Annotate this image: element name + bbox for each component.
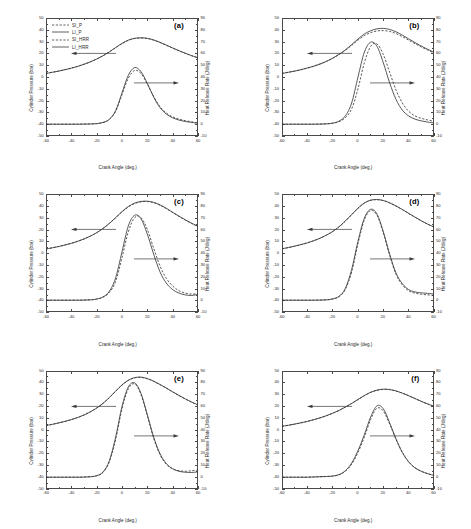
y-right-tick-label: 10	[436, 110, 441, 114]
y-right-tick-label: 10	[201, 463, 206, 467]
y-right-tick-label: 20	[436, 451, 441, 455]
y-right-tick-label: 30	[436, 263, 441, 267]
y-left-tick-label: -30	[38, 287, 44, 291]
x-tick	[434, 133, 435, 136]
chart-panel-e: Cylinder Pressure (bar)Heat Release Rate…	[0, 353, 236, 529]
y-left-tick-label: 20	[274, 51, 279, 55]
x-axis-title: Crank Angle (deg.)	[334, 342, 372, 347]
y-right-tick-label: -10	[201, 310, 207, 314]
arrow-to-pressure-axis	[71, 228, 116, 231]
legend-label: LI_HRR	[72, 45, 89, 50]
y-right-tick-label: 40	[201, 428, 206, 432]
chart-panel-d: Cylinder Pressure (bar)Heat Release Rate…	[236, 176, 471, 352]
x-tick-label: -40	[68, 315, 74, 319]
x-tick	[198, 486, 199, 489]
y-left-tick-label: 50	[39, 192, 44, 196]
x-tick-label: 20	[381, 315, 386, 319]
arrow-to-hrr-axis	[370, 434, 415, 437]
x-tick-label: -40	[68, 491, 74, 495]
y-right-tick-label: 0	[436, 122, 438, 126]
series-si_p	[282, 389, 434, 426]
series-si_hrr	[282, 211, 434, 301]
series-si_p	[46, 202, 198, 250]
plot-area: (d)50403020100-10-20-30-40-5090807060504…	[282, 194, 434, 312]
y-right-tick-label: 30	[436, 439, 441, 443]
x-tick-label: -60	[279, 315, 285, 319]
y-right-tick-label: 60	[201, 404, 206, 408]
series-si_hrr	[46, 70, 198, 124]
y-left-tick-label: 40	[274, 204, 279, 208]
plot-area: (f)50403020100-10-20-30-40-5090807060504…	[282, 371, 434, 489]
legend-label: SI_P	[72, 23, 82, 28]
y-right-tick-label: 80	[201, 380, 206, 384]
y-right-tick-label: 60	[436, 51, 441, 55]
x-tick-label: 60	[196, 491, 201, 495]
y-axis-right-title: Heat Release Rate (J/deg)	[205, 414, 210, 468]
y-right-tick-label: 40	[436, 251, 441, 255]
chart-panel-b: Cylinder Pressure (bar)Heat Release Rate…	[236, 0, 471, 176]
y-right-tick-label: -10	[436, 487, 442, 491]
x-tick-label: -60	[279, 139, 285, 143]
x-tick-label: 20	[381, 139, 386, 143]
y-right-tick-label: 90	[201, 192, 206, 196]
x-tick-label: 60	[196, 139, 201, 143]
y-right-tick-label: 30	[201, 263, 206, 267]
x-tick-label: 20	[145, 315, 150, 319]
series-layer	[282, 194, 434, 312]
series-li_hrr	[282, 405, 434, 477]
y-left-tick-label: -10	[273, 87, 279, 91]
x-tick-label: 40	[170, 139, 175, 143]
x-tick-label: -20	[94, 139, 100, 143]
y-left-tick-label: -10	[38, 263, 44, 267]
series-li_p	[46, 377, 198, 425]
y-left-tick-label: -40	[273, 298, 279, 302]
y-right-tick-label: 60	[201, 228, 206, 232]
y-right-tick-label: 80	[436, 28, 441, 32]
x-tick-label: 0	[121, 139, 123, 143]
y-right-tick-label: 0	[201, 122, 203, 126]
y-right-tick-label: 40	[436, 428, 441, 432]
y-right-tick-label: 50	[201, 416, 206, 420]
plot-area: (c)50403020100-10-20-30-40-5090807060504…	[46, 194, 198, 312]
x-tick-label: -40	[68, 139, 74, 143]
y-right-tick-label: 40	[436, 75, 441, 79]
arrow-to-pressure-axis	[71, 404, 116, 407]
y-left-tick-label: 10	[39, 239, 44, 243]
x-tick-label: -20	[329, 315, 335, 319]
x-axis-title: Crank Angle (deg.)	[99, 518, 137, 523]
y-left-tick-label: 40	[39, 204, 44, 208]
y-left-tick-label: -30	[38, 463, 44, 467]
x-tick-label: -20	[94, 315, 100, 319]
y-left-tick-label: -30	[273, 287, 279, 291]
x-tick-label: -20	[94, 491, 100, 495]
chart-panel-f: Cylinder Pressure (bar)Heat Release Rate…	[236, 353, 471, 529]
y-right-tick-label: 70	[436, 392, 441, 396]
y-right-tick-label: 90	[436, 369, 441, 373]
y-left-tick-label: -30	[273, 463, 279, 467]
series-si_hrr	[282, 407, 434, 477]
y-left-tick-label: 40	[39, 28, 44, 32]
legend-swatch-solid-icon	[52, 30, 69, 34]
y-right-tick-label: 80	[201, 28, 206, 32]
y-right-tick-label: 30	[201, 87, 206, 91]
y-right-tick-label: 90	[201, 369, 206, 373]
plot-area: (e)50403020100-10-20-30-40-5090807060504…	[46, 371, 198, 489]
y-axis-left-title: Cylinder Pressure (bar)	[265, 417, 270, 464]
x-tick-label: -60	[43, 315, 49, 319]
y-right-tick-label: 0	[436, 475, 438, 479]
y-right-tick-label: 80	[436, 204, 441, 208]
y-left-tick-label: 10	[274, 63, 279, 67]
y-right-tick-label: 10	[436, 287, 441, 291]
y-left-tick-label: -20	[273, 99, 279, 103]
y-left-tick-label: 30	[274, 392, 279, 396]
y-left-tick-label: -30	[273, 110, 279, 114]
y-left-tick-label: 30	[39, 392, 44, 396]
y-left-tick-label: 20	[39, 404, 44, 408]
y-right-tick-label: 20	[201, 99, 206, 103]
y-right-tick-label: 10	[201, 110, 206, 114]
y-left-tick-label: -40	[38, 475, 44, 479]
y-right-tick-label: 70	[436, 216, 441, 220]
y-axis-right-title: Heat Release Rate (J/deg)	[440, 414, 445, 468]
arrow-to-hrr-axis	[370, 257, 415, 260]
y-left-tick-label: 30	[274, 40, 279, 44]
